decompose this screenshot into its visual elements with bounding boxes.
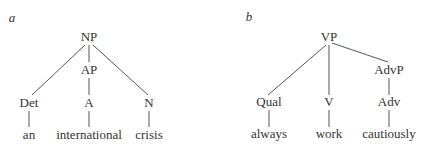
leaf-cautiously: cautiously (362, 127, 415, 141)
leaf-always: always (251, 127, 287, 141)
panel-label-b: b (246, 9, 253, 25)
leaf-international: international (56, 128, 122, 142)
panel-label-a: a (9, 10, 16, 26)
leaf-crisis: crisis (135, 128, 162, 142)
node-qual: Qual (256, 95, 281, 109)
node-det: Det (20, 96, 39, 110)
node-vp: VP (321, 30, 338, 44)
node-v: V (324, 95, 333, 109)
node-a: A (84, 96, 93, 110)
leaf-work: work (316, 127, 343, 141)
edge-vp-advp (332, 43, 388, 62)
edge-vp-qual (268, 45, 326, 95)
edge-np-det (32, 45, 85, 95)
leaf-an: an (23, 128, 35, 142)
edge-np-n (93, 45, 148, 95)
node-np: NP (81, 30, 98, 44)
node-n: N (144, 96, 153, 110)
node-ap: AP (81, 63, 98, 77)
node-adv: Adv (378, 95, 400, 109)
node-advp: AdvP (374, 63, 404, 77)
